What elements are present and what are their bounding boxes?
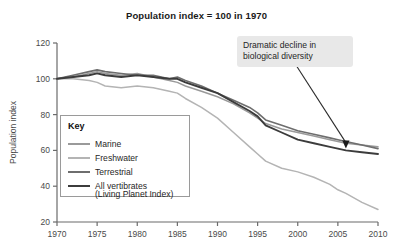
svg-text:Population index: Population index <box>8 100 18 164</box>
legend-sublabel-living-planet-index: (Living Planet Index) <box>95 189 173 199</box>
svg-text:60: 60 <box>41 145 51 155</box>
legend-swatch-all-vertibrates <box>68 185 90 187</box>
annotation-line-2: biological diversity <box>243 51 347 62</box>
svg-text:80: 80 <box>41 110 51 120</box>
svg-text:1995: 1995 <box>248 229 267 239</box>
legend-item-marine[interactable]: Marine <box>68 137 121 150</box>
legend: Key Marine Freshwater Terrestrial All ve… <box>60 115 190 197</box>
svg-text:120: 120 <box>36 38 50 48</box>
legend-swatch-freshwater <box>68 157 90 159</box>
svg-text:2010: 2010 <box>369 229 388 239</box>
svg-text:40: 40 <box>41 181 51 191</box>
annotation-line-1: Dramatic decline in <box>243 40 347 51</box>
svg-text:1975: 1975 <box>88 229 107 239</box>
legend-title: Key <box>68 121 85 131</box>
legend-label-terrestrial: Terrestrial <box>95 167 133 177</box>
svg-text:1970: 1970 <box>48 229 67 239</box>
svg-text:1990: 1990 <box>208 229 227 239</box>
legend-swatch-terrestrial <box>68 171 90 173</box>
legend-item-freshwater[interactable]: Freshwater <box>68 151 138 164</box>
chart-figure: Population index = 100 in 1970 204060801… <box>0 0 393 247</box>
svg-text:100: 100 <box>36 74 50 84</box>
legend-item-terrestrial[interactable]: Terrestrial <box>68 165 133 178</box>
svg-text:1985: 1985 <box>168 229 187 239</box>
legend-label-freshwater: Freshwater <box>95 153 138 163</box>
annotation-callout: Dramatic decline in biological diversity <box>237 36 353 67</box>
legend-label-marine: Marine <box>95 139 121 149</box>
svg-text:20: 20 <box>41 217 51 227</box>
svg-text:2000: 2000 <box>288 229 307 239</box>
svg-text:2005: 2005 <box>328 229 347 239</box>
svg-text:1980: 1980 <box>128 229 147 239</box>
legend-swatch-marine <box>68 143 90 145</box>
